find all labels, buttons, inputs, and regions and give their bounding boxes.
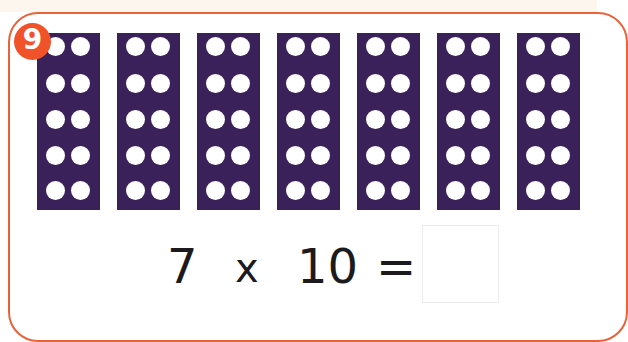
bar-dot <box>446 37 465 56</box>
bar-dot <box>311 110 330 129</box>
bar-dot <box>311 37 330 56</box>
bar-dot <box>311 146 330 165</box>
bar-dot <box>126 110 145 129</box>
bar-dot <box>551 74 570 93</box>
bar-dot <box>151 74 170 93</box>
bar-dot <box>286 110 305 129</box>
right-operand: 10 <box>297 236 358 296</box>
bar-dot <box>206 37 225 56</box>
bar-dot <box>231 74 250 93</box>
bar-dot <box>206 74 225 93</box>
answer-box[interactable] <box>422 225 499 303</box>
bar-dot <box>446 181 465 200</box>
bar-dot <box>126 37 145 56</box>
bar-dot <box>286 74 305 93</box>
bar-dot <box>151 110 170 129</box>
bar-dot <box>526 146 545 165</box>
ten-bar <box>437 33 500 210</box>
bar-dot <box>286 146 305 165</box>
bar-dot <box>366 181 385 200</box>
bar-dot <box>71 37 90 56</box>
ten-bar <box>37 33 100 210</box>
bar-dot <box>126 74 145 93</box>
bar-dot <box>206 110 225 129</box>
bar-dot <box>366 74 385 93</box>
bar-dot <box>446 74 465 93</box>
bar-dot <box>231 181 250 200</box>
bar-dot <box>391 74 410 93</box>
bar-dot <box>126 181 145 200</box>
bar-dot <box>551 181 570 200</box>
bar-dot <box>366 37 385 56</box>
left-operand: 7 <box>167 236 198 296</box>
top-band <box>0 0 597 12</box>
bar-dot <box>206 181 225 200</box>
ten-bar <box>117 33 180 210</box>
bar-dot <box>391 110 410 129</box>
bar-dot <box>526 181 545 200</box>
ten-bars-group <box>37 33 580 210</box>
bar-dot <box>471 110 490 129</box>
bar-dot <box>71 146 90 165</box>
bar-dot <box>151 37 170 56</box>
bar-dot <box>526 74 545 93</box>
bar-dot <box>551 146 570 165</box>
bar-dot <box>206 146 225 165</box>
bar-dot <box>286 181 305 200</box>
bar-dot <box>391 146 410 165</box>
bar-dot <box>391 181 410 200</box>
bar-dot <box>471 181 490 200</box>
bar-dot <box>71 74 90 93</box>
bar-dot <box>551 37 570 56</box>
bar-dot <box>446 110 465 129</box>
bar-dot <box>71 110 90 129</box>
bar-dot <box>311 181 330 200</box>
bar-dot <box>471 74 490 93</box>
bar-dot <box>311 74 330 93</box>
bar-dot <box>286 37 305 56</box>
bar-dot <box>151 181 170 200</box>
bar-dot <box>471 37 490 56</box>
bar-dot <box>46 110 65 129</box>
bar-dot <box>126 146 145 165</box>
ten-bar <box>277 33 340 210</box>
bar-dot <box>391 37 410 56</box>
bar-dot <box>231 110 250 129</box>
equals-sign: = <box>376 236 416 296</box>
exercise-number-badge: 9 <box>14 23 51 60</box>
ten-bar <box>357 33 420 210</box>
bar-dot <box>231 37 250 56</box>
bar-dot <box>46 181 65 200</box>
ten-bar <box>197 33 260 210</box>
bar-dot <box>46 74 65 93</box>
bar-dot <box>231 146 250 165</box>
multiply-operator: x <box>235 238 259 298</box>
bar-dot <box>71 181 90 200</box>
bar-dot <box>551 110 570 129</box>
bar-dot <box>151 146 170 165</box>
bar-dot <box>446 146 465 165</box>
bar-dot <box>526 110 545 129</box>
bar-dot <box>366 146 385 165</box>
bar-dot <box>471 146 490 165</box>
ten-bar <box>517 33 580 210</box>
bar-dot <box>366 110 385 129</box>
bar-dot <box>46 146 65 165</box>
bar-dot <box>526 37 545 56</box>
